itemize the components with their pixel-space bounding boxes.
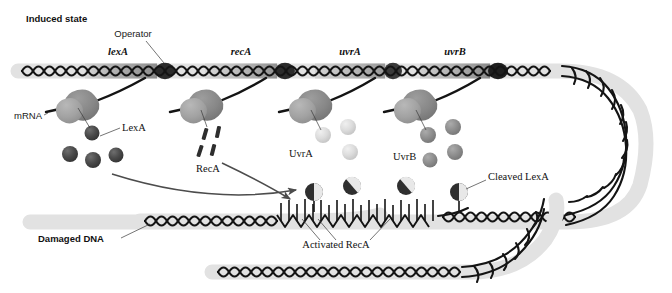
sos-response-diagram: lexA recA uvrA uvrB Induced state Operat… bbox=[0, 0, 672, 293]
uvra-protein-free-1 bbox=[340, 119, 356, 135]
uvrb-protein-free-3 bbox=[423, 153, 438, 168]
uvrb-label: UvrB bbox=[393, 151, 416, 162]
lexa-label: LexA bbox=[122, 122, 146, 133]
gene-label-lexA: lexA bbox=[108, 46, 128, 57]
cleaved-lexa-label: Cleaved LexA bbox=[488, 171, 549, 182]
page-title: Induced state bbox=[26, 13, 87, 24]
operator-label: Operator bbox=[114, 28, 152, 39]
uvra-label: UvrA bbox=[289, 148, 313, 159]
damaged-dna-label: Damaged DNA bbox=[38, 233, 104, 244]
reca-label: RecA bbox=[196, 163, 220, 174]
uvrb-protein-free-2 bbox=[447, 144, 463, 160]
uvra-protein-free-2 bbox=[342, 144, 358, 160]
gene-label-uvrB: uvrB bbox=[444, 46, 466, 57]
operator-uvrA bbox=[384, 63, 402, 79]
gene-label-uvrA: uvrA bbox=[339, 46, 361, 57]
gene-label-recA: recA bbox=[231, 46, 251, 57]
activated-reca-label: Activated RecA bbox=[302, 239, 370, 250]
lexa-protein-free-2 bbox=[85, 152, 101, 168]
mrna-label: mRNA bbox=[14, 110, 43, 121]
uvra-protein-nascent bbox=[315, 127, 331, 143]
uvrb-protein-free-1 bbox=[445, 119, 461, 135]
lexa-protein-nascent bbox=[85, 126, 100, 141]
lexa-protein-free-3 bbox=[109, 148, 124, 163]
lexa-protein-free-1 bbox=[62, 146, 78, 162]
uvrb-protein-nascent bbox=[420, 127, 436, 143]
